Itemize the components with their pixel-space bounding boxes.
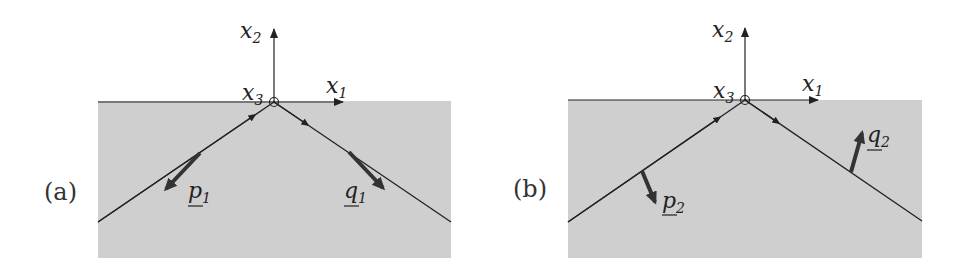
x2-label: x2: [240, 18, 261, 46]
x3-label: x3: [242, 80, 263, 108]
panel-label-a: (a): [44, 178, 77, 206]
x2-label: x2: [712, 17, 733, 45]
x3-label: x3: [713, 78, 734, 106]
x1-label: x1: [802, 71, 823, 99]
x1-label: x1: [326, 73, 347, 101]
panel-a: (a) x2 x1 x3 p1 q1: [44, 18, 451, 258]
panel-b: (b) x2 x1 x3 p2 q2: [513, 17, 922, 258]
panel-label-b: (b): [513, 175, 547, 203]
figure-canvas: (a) x2 x1 x3 p1 q1 (b) x2 x1 x3 p2 q2: [0, 0, 967, 274]
medium-region: [98, 101, 451, 258]
